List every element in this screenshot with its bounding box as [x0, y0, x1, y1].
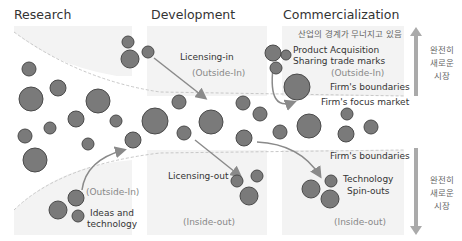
licensing-out-direction: (Inside-out): [183, 217, 235, 228]
firms-boundaries-top-label: Firm's boundaries: [330, 82, 410, 93]
ideas-technology-line1: Ideas and: [90, 208, 134, 219]
licensing-in-direction: (Outside-In): [192, 68, 245, 79]
technology-spinouts-line2: Spin-outs: [347, 186, 389, 197]
firms-boundaries-bottom-label: Firm's boundaries: [330, 151, 410, 162]
down-arrow-icon: [410, 148, 422, 235]
ideas-technology-line2: technology: [87, 219, 137, 230]
header-commercialization: Commercialization: [283, 7, 399, 22]
header-development: Development: [151, 7, 235, 22]
firms-focus-market-label: Firm's focus market: [321, 97, 409, 108]
side-label-bottom-line3: 시장: [422, 200, 462, 213]
side-label-bottom-line1: 완전히: [422, 174, 462, 187]
up-arrow-icon: [410, 27, 422, 96]
industry-boundary-note: 산업의 경계가 무너지고 있음: [298, 29, 402, 40]
research-outside-in-label: (Outside-In): [86, 187, 139, 198]
spinout-direction: (Inside-out): [334, 217, 386, 228]
side-label-bottom: 완전히 새로운 시장: [422, 174, 462, 213]
licensing-out-label: Licensing-out: [168, 171, 228, 182]
side-label-top-line1: 완전히: [422, 44, 462, 57]
side-label-top: 완전히 새로운 시장: [422, 44, 462, 83]
commercial-outside-in-label: (Outside-In): [331, 68, 384, 79]
sharing-trade-marks-label: Sharing trade marks: [293, 56, 385, 67]
licensing-in-label: Licensing-in: [180, 52, 234, 63]
side-label-top-line2: 새로운: [422, 57, 462, 70]
technology-spinouts-line1: Technology: [343, 174, 393, 185]
header-research: Research: [14, 7, 71, 22]
side-label-bottom-line2: 새로운: [422, 187, 462, 200]
product-acquisition-label: Product Acquisition: [293, 45, 379, 56]
side-label-top-line3: 시장: [422, 70, 462, 83]
